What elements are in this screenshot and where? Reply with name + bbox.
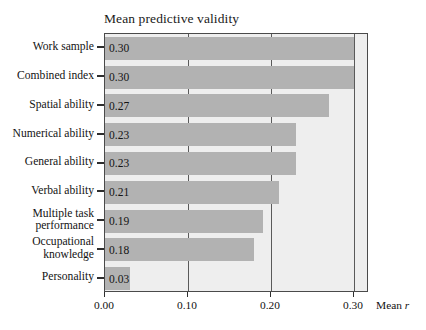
y-axis-tick (97, 46, 104, 48)
plot-area: 0.300.300.270.230.230.210.190.180.03 (104, 33, 368, 292)
y-axis-label: Personality (42, 271, 94, 283)
bar-row: 0.23 (105, 152, 367, 175)
bar-value-label: 0.19 (109, 215, 129, 227)
bar-value-label: 0.30 (109, 42, 129, 54)
y-axis-label: Spatial ability (29, 99, 94, 111)
bar-value-label: 0.27 (109, 100, 129, 112)
plot-inner: 0.300.300.270.230.230.210.190.180.03 (105, 34, 367, 291)
y-axis-label-line: Combined index (17, 70, 94, 82)
y-axis-label: Occupationalknowledge (32, 236, 94, 261)
bar-value-label: 0.18 (109, 244, 129, 256)
bar-value-label: 0.03 (109, 273, 129, 285)
x-axis-tick (353, 292, 354, 297)
bar-value-label: 0.21 (109, 186, 129, 198)
y-axis-tick (97, 277, 104, 279)
y-axis-label: General ability (25, 156, 94, 168)
bar-row: 0.21 (105, 181, 367, 204)
y-axis-label: Numerical ability (13, 128, 94, 140)
bar-row: 0.19 (105, 210, 367, 233)
y-axis-label: Verbal ability (31, 185, 94, 197)
bar-row: 0.30 (105, 37, 367, 60)
y-axis-tick (97, 104, 104, 106)
y-axis-label-line: Occupational (32, 236, 94, 248)
x-axis-tick (187, 292, 188, 297)
y-axis-tick (97, 133, 104, 135)
x-axis-title: Mean r (376, 299, 409, 311)
chart-container: Mean predictive validity 0.300.300.270.2… (0, 0, 426, 330)
y-axis-label: Combined index (17, 70, 94, 82)
y-axis-label: Work sample (33, 41, 94, 53)
y-axis-label-line: performance (32, 220, 94, 232)
x-axis-tick-label: 0.00 (94, 299, 114, 311)
bar-row: 0.18 (105, 238, 367, 261)
y-axis-label: Multiple taskperformance (32, 208, 94, 233)
bar[interactable] (105, 66, 354, 89)
bar[interactable] (105, 152, 296, 175)
bar[interactable] (105, 181, 279, 204)
bar-row: 0.30 (105, 66, 367, 89)
y-axis-label-line: Verbal ability (31, 185, 94, 197)
bar[interactable] (105, 94, 329, 117)
bar-row: 0.27 (105, 94, 367, 117)
bar[interactable] (105, 123, 296, 146)
bar-value-label: 0.23 (109, 157, 129, 169)
y-axis-tick (97, 190, 104, 192)
bar-value-label: 0.23 (109, 129, 129, 141)
bar-row: 0.03 (105, 267, 367, 290)
x-axis-title-symbol: r (405, 299, 409, 311)
y-axis-tick (97, 75, 104, 77)
x-axis-tick-label: 0.10 (177, 299, 197, 311)
chart-title: Mean predictive validity (104, 11, 239, 27)
x-axis-tick (270, 292, 271, 297)
bar[interactable] (105, 37, 354, 60)
y-axis-label-line: Work sample (33, 41, 94, 53)
y-axis-tick (97, 219, 104, 221)
y-axis-label-line: knowledge (32, 249, 94, 261)
y-axis-label-line: Numerical ability (13, 128, 94, 140)
y-axis-label-line: Personality (42, 271, 94, 283)
bar-row: 0.23 (105, 123, 367, 146)
y-axis-label-line: Spatial ability (29, 99, 94, 111)
x-axis-tick (104, 292, 105, 297)
x-axis-title-prefix: Mean (376, 299, 405, 311)
x-axis-tick-label: 0.30 (343, 299, 363, 311)
y-axis-label-line: General ability (25, 156, 94, 168)
x-axis-tick-label: 0.20 (260, 299, 280, 311)
bar-value-label: 0.30 (109, 71, 129, 83)
y-axis-tick (97, 162, 104, 164)
y-axis-tick (97, 248, 104, 250)
